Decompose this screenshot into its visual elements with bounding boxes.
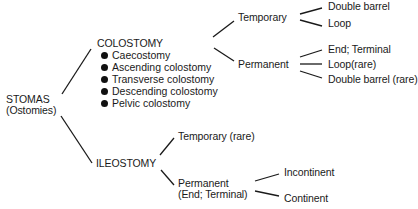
edge-permanent-double-barrel-rare [300, 71, 322, 78]
temporary-double-barrel-label: Double barrel [328, 0, 390, 12]
edge-colostomy-temporary [213, 21, 234, 37]
edge-colostomy-permanent [214, 48, 234, 61]
colostomy-subtype: Transverse colostomy [101, 73, 214, 85]
permanent-double-barrel-rare-label: Double barrel (rare) [328, 73, 418, 85]
colostomy-label: COLOSTOMY [97, 37, 163, 49]
bullet-icon [101, 64, 108, 71]
edge-ileostomy-temporary [160, 138, 174, 155]
bullet-icon [101, 76, 108, 83]
bullet-icon [101, 100, 108, 107]
ileostomy-label: ILEOSTOMY [96, 157, 156, 169]
colostomy-permanent-label: Permanent [238, 58, 288, 70]
edge-permanent-end-terminal [300, 50, 322, 57]
colostomy-temporary-label: Temporary [238, 11, 287, 23]
ileostomy-temporary-label: Temporary (rare) [178, 130, 255, 142]
edge-stomas-colostomy [62, 49, 91, 94]
colostomy-subtype: Pelvic colostomy [101, 97, 190, 109]
ileostomy-permanent-sublabel: (End; Terminal) [178, 188, 248, 200]
colostomy-subtype: Descending colostomy [101, 85, 218, 97]
root-ostomies-label: (Ostomies) [6, 104, 56, 116]
colostomy-subtype: Caecostomy [101, 49, 170, 61]
continent-label: Continent [284, 192, 328, 204]
edge-temporary-double-barrel [300, 8, 322, 14]
bullet-icon [101, 52, 108, 59]
edge-ileo-permanent-incontinent [255, 174, 279, 181]
temporary-loop-label: Loop [328, 17, 351, 29]
edge-ileostomy-permanent [161, 170, 174, 185]
edge-stomas-ileostomy [61, 116, 92, 163]
permanent-loop-rare-label: Loop(rare) [328, 58, 376, 70]
edge-ileo-permanent-continent [255, 191, 279, 196]
permanent-end-terminal-label: End; Terminal [328, 43, 391, 55]
edge-temporary-loop [300, 20, 322, 26]
colostomy-subtype: Ascending colostomy [101, 61, 211, 73]
incontinent-label: Incontinent [284, 166, 334, 178]
bullet-icon [101, 88, 108, 95]
